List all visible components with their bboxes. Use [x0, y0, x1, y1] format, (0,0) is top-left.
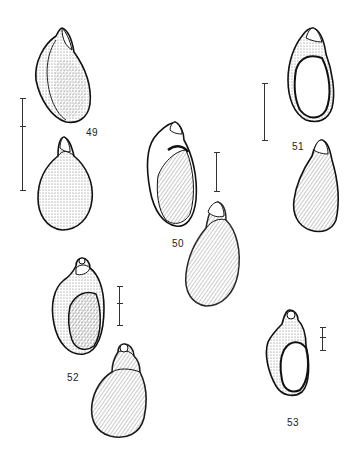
- shell-52-abapertural: [92, 344, 146, 437]
- shell-49-apertural: [36, 28, 91, 122]
- shell-51-abapertural: [294, 140, 338, 232]
- figure-label-52: 52: [67, 372, 79, 383]
- shell-51-apertural: [288, 28, 334, 122]
- shell-drawings: [0, 0, 355, 463]
- shell-50-abapertural: [186, 202, 240, 306]
- scale-bar-49: [20, 98, 26, 191]
- shell-52-apertural: [52, 258, 104, 354]
- figure-label-53: 53: [287, 417, 299, 428]
- shell-50-apertural: [147, 122, 196, 226]
- shell-49-abapertural: [38, 137, 92, 230]
- shell-53-apertural: [266, 310, 308, 395]
- figure-label-51: 51: [292, 141, 304, 152]
- scale-bar-51: [262, 83, 268, 141]
- figure-label-50: 50: [172, 238, 184, 249]
- scale-bar-52: [117, 286, 123, 326]
- scale-bar-53: [320, 327, 326, 351]
- figure-label-49: 49: [86, 127, 98, 138]
- illustration-plate: 49 50 51 52 53: [0, 0, 355, 463]
- scale-bar-50: [214, 152, 220, 192]
